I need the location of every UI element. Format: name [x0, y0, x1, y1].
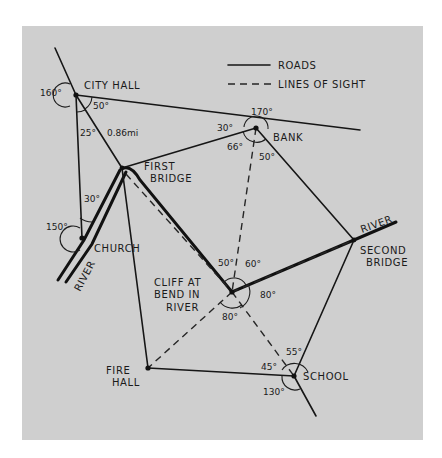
- road-bank-second-bridge: [256, 128, 354, 240]
- node-church: [79, 235, 84, 240]
- angle-cliff-60: 60°: [245, 259, 261, 269]
- arc-bank-50: [254, 139, 266, 142]
- angle-bank-50: 50°: [259, 152, 275, 162]
- angle-school-55: 55°: [286, 347, 302, 357]
- label-church: CHURCH: [94, 243, 140, 254]
- river-main-channel: [124, 168, 396, 292]
- place-labels: CITY HALL BANK FIRST BRIDGE CHURCH CLIFF…: [72, 80, 408, 388]
- label-cliff-1: CLIFF AT: [154, 277, 201, 288]
- arc-bank-66: [243, 131, 254, 142]
- angle-city-hall-50: 50°: [93, 101, 109, 111]
- legend-roads-label: ROADS: [278, 60, 317, 71]
- distance-label: 0.86mi: [107, 128, 138, 138]
- angle-church-30: 30°: [84, 194, 100, 204]
- legend: ROADS LINES OF SIGHT: [228, 60, 366, 90]
- label-river-left: RIVER: [72, 259, 97, 293]
- angle-cliff-50: 50°: [218, 258, 234, 268]
- node-bank: [253, 125, 258, 130]
- label-city-hall: CITY HALL: [84, 80, 140, 91]
- label-bank: BANK: [273, 132, 303, 143]
- node-cliff: [229, 289, 234, 294]
- label-first-bridge-1: FIRST: [144, 161, 175, 172]
- angle-cliff-right: 80°: [260, 290, 276, 300]
- node-city-hall: [73, 92, 78, 97]
- angle-bank-66: 66°: [227, 142, 243, 152]
- label-school: SCHOOL: [303, 371, 349, 382]
- angle-school-130: 130°: [263, 387, 285, 397]
- sight-first-bridge-cliff: [126, 174, 232, 292]
- road-first-bridge-fire-hall: [122, 168, 148, 368]
- label-cliff-3: RIVER: [166, 302, 199, 313]
- arc-city-hall-25: [77, 110, 85, 112]
- angle-labels: 160° 50° 25° 170° 30° 66° 50° 30° 150° 5…: [40, 88, 302, 397]
- angle-city-hall-25: 25°: [80, 128, 96, 138]
- node-school: [291, 373, 296, 378]
- label-second-bridge-1: SECOND: [360, 245, 406, 256]
- angle-church-outer: 150°: [46, 222, 68, 232]
- route-diagram: ROADS LINES OF SIGHT: [0, 0, 442, 458]
- road-city-hall-church: [76, 95, 82, 238]
- label-fire-hall-2: HALL: [112, 377, 140, 388]
- label-cliff-2: BEND IN: [154, 289, 200, 300]
- node-fire-hall: [145, 365, 150, 370]
- angle-bank-30: 30°: [217, 123, 233, 133]
- angle-school-45: 45°: [261, 362, 277, 372]
- arc-cliff-80-bottom: [220, 302, 242, 308]
- arc-city-hall-50: [85, 97, 92, 109]
- node-second-bridge: [352, 238, 357, 243]
- road-south-of-school: [294, 376, 316, 416]
- angle-bank-top: 170°: [251, 107, 273, 117]
- legend-sight-label: LINES OF SIGHT: [278, 79, 366, 90]
- angle-cliff-bottom: 80°: [222, 312, 238, 322]
- label-first-bridge-2: BRIDGE: [150, 173, 192, 184]
- label-fire-hall-1: FIRE: [106, 365, 130, 376]
- angle-city-hall-outer: 160°: [40, 88, 62, 98]
- node-first-bridge: [120, 166, 125, 171]
- label-second-bridge-2: BRIDGE: [366, 257, 408, 268]
